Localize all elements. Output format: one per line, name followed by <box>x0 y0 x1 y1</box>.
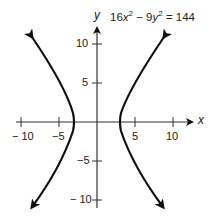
x-tick-label: −5 <box>52 131 65 142</box>
y-tick-label: 10 <box>76 38 88 49</box>
eq-minus: − 9 <box>133 11 153 23</box>
eq-coef-x: 16 <box>110 11 123 23</box>
x-tick-label: 10 <box>166 131 178 142</box>
x-tick-label: − 10 <box>12 131 34 142</box>
y-axis-label: y <box>94 9 100 21</box>
y-tick-label: 5 <box>82 77 88 88</box>
y-tick-label: − 10 <box>70 194 92 205</box>
eq-rhs: = 144 <box>163 11 195 23</box>
hyperbola-chart: y x − 10 −5 5 10 10 5 −5 − 10 16x2 − 9y2… <box>0 0 212 218</box>
y-tick-label: −5 <box>77 155 90 166</box>
equation-label: 16x2 − 9y2 = 144 <box>110 10 195 24</box>
x-tick-label: 5 <box>132 131 138 142</box>
x-axis-label: x <box>198 114 204 126</box>
plot-svg <box>0 0 212 218</box>
